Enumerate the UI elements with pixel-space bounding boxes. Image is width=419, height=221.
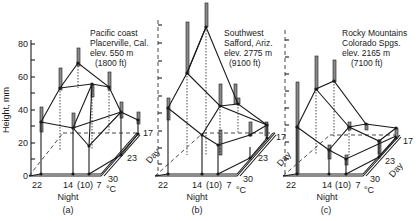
- panel-a-night-10: (10): [77, 180, 93, 190]
- panel-b-day-23: 23: [258, 153, 268, 163]
- panel-b-night-14: 14: [192, 180, 202, 190]
- panel-a-day-label: Day: [144, 146, 162, 165]
- panel-c-day-30: 30: [370, 174, 380, 184]
- panel-b-elevation: elev. 2775 m: [224, 48, 272, 58]
- panel-c-night-7: 7: [355, 180, 360, 190]
- panel-a: Pacific coast Placerville, Cal. elev. 55…: [29, 28, 149, 215]
- panel-b-night-10: (10): [206, 180, 222, 190]
- panel-a-night-22: 22: [32, 180, 42, 190]
- panel-a-site: Placerville, Cal.: [90, 38, 149, 48]
- panel-a-night-label: Night: [57, 192, 79, 202]
- panel-a-day-23: 23: [127, 153, 137, 163]
- y-tick-80: 80: [18, 39, 28, 49]
- panel-a-day-30: 30: [108, 174, 118, 184]
- panel-c-elevation: elev. 2165 m: [342, 48, 390, 58]
- panel-c-night-label: Night: [316, 192, 338, 202]
- panel-a-unit: °C: [106, 184, 117, 194]
- panel-c-site: Colorado Spgs.: [342, 38, 401, 48]
- panel-c-night-14: 14: [322, 180, 332, 190]
- panel-c-night-10: (10): [335, 180, 351, 190]
- panel-a-elevation-ft: (1800 ft): [95, 58, 127, 68]
- panel-b: Southwest Safford, Ariz. elev. 2775 m (9…: [155, 3, 293, 215]
- panel-b-night-7: 7: [226, 180, 231, 190]
- panel-b-night-label: Night: [186, 192, 208, 202]
- panel-a-region: Pacific coast: [90, 28, 138, 38]
- panel-c-night-22: 22: [286, 180, 296, 190]
- y-axis-label: Height, mm: [1, 87, 11, 133]
- y-tick-40: 40: [18, 105, 28, 115]
- y-tick-60: 60: [18, 72, 28, 82]
- panel-b-unit: °C: [236, 185, 247, 195]
- panel-b-day-17: 17: [276, 132, 286, 142]
- panel-b-caption: (b): [192, 205, 203, 215]
- y-tick-0: 0: [23, 171, 28, 181]
- panel-a-night-7: 7: [96, 180, 101, 190]
- y-tick-20: 20: [18, 138, 28, 148]
- panel-b-day-30: 30: [243, 174, 253, 184]
- panel-c-day-17: 17: [403, 136, 413, 146]
- panel-c: Rocky Mountains Colorado Spgs. elev. 216…: [283, 28, 413, 215]
- panel-c-elevation-ft: (7100 ft): [351, 58, 383, 68]
- panel-a-elevation: elev. 550 m: [90, 48, 133, 58]
- panel-b-region: Southwest: [224, 28, 264, 38]
- panel-b-site: Safford, Ariz.: [224, 38, 273, 48]
- panel-a-caption: (a): [63, 205, 74, 215]
- panel-c-unit: °C: [364, 185, 375, 195]
- panel-c-caption: (c): [321, 205, 332, 215]
- figure-canvas: 80 60 40 20 0 Height, mm: [0, 0, 419, 221]
- panel-c-region: Rocky Mountains: [342, 28, 407, 38]
- panel-b-elevation-ft: (9100 ft): [229, 58, 261, 68]
- y-axis: 80 60 40 20 0 Height, mm: [1, 39, 35, 181]
- panel-a-day-17: 17: [143, 128, 153, 138]
- panel-b-day-label: Day: [275, 149, 293, 168]
- panel-a-night-14: 14: [63, 180, 73, 190]
- panel-b-night-22: 22: [158, 180, 168, 190]
